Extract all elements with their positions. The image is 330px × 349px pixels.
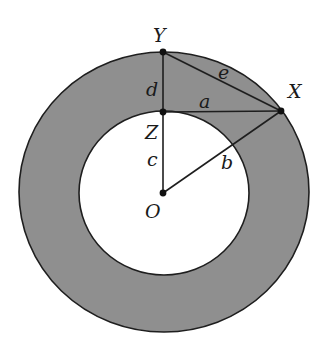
- label-O: O: [145, 200, 161, 222]
- point-X: [278, 108, 285, 115]
- label-Z: Z: [144, 121, 159, 143]
- label-X: X: [286, 80, 303, 102]
- label-Y: Y: [153, 24, 168, 46]
- label-d: d: [146, 78, 158, 100]
- label-b: b: [221, 151, 233, 173]
- annulus-diagram: Y X Z O d a e c b: [0, 0, 330, 349]
- label-a: a: [199, 90, 210, 112]
- segment-a-ZX: [163, 111, 281, 112]
- label-e: e: [218, 61, 229, 83]
- point-Z: [160, 109, 167, 116]
- point-Y: [160, 49, 167, 56]
- point-O: [160, 190, 167, 197]
- label-c: c: [147, 148, 158, 170]
